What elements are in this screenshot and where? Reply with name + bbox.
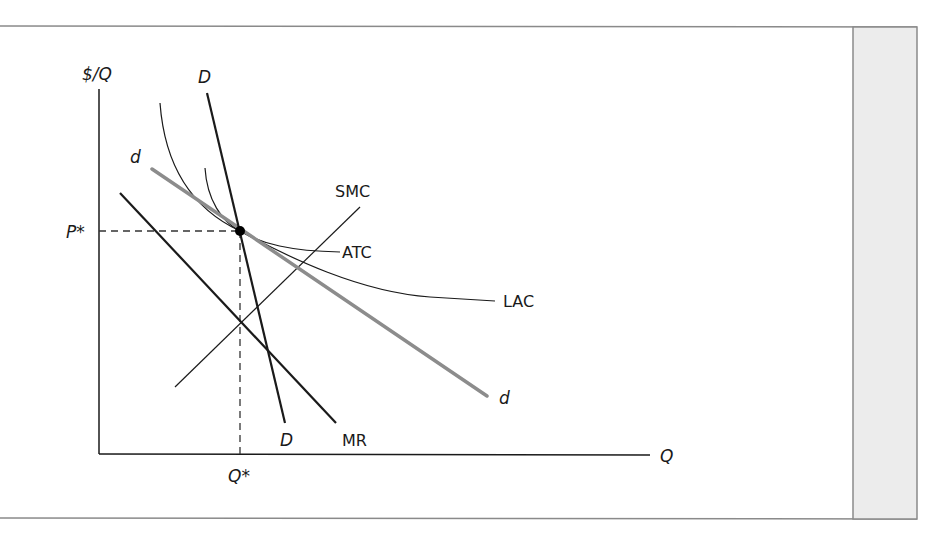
- firm-demand-label-bottom: d: [499, 388, 510, 408]
- frame-bottom-border: [0, 518, 917, 519]
- market-demand-label-bottom: D: [280, 430, 293, 450]
- x-axis: [99, 454, 650, 455]
- equilibrium-point: [235, 226, 245, 236]
- marginal-revenue-curve: [120, 193, 336, 423]
- diagram-canvas: $/Q Q P* Q* LAC ATC SMC d d D D MR: [0, 0, 952, 538]
- smc-curve: [175, 207, 360, 387]
- lac-label: LAC: [503, 292, 534, 311]
- p-star-label: P*: [66, 222, 85, 242]
- q-star-label: Q*: [228, 466, 250, 486]
- smc-label: SMC: [335, 182, 370, 201]
- atc-curve: [205, 168, 340, 252]
- market-demand-curve: [207, 93, 285, 423]
- lac-curve: [160, 103, 495, 301]
- y-axis-label: $/Q: [82, 64, 112, 84]
- firm-demand-label-top: d: [130, 147, 141, 167]
- firm-demand-curve: [152, 169, 487, 396]
- x-axis-label: Q: [660, 446, 673, 466]
- side-panel: [853, 27, 917, 519]
- market-demand-label-top: D: [198, 67, 211, 87]
- frame-top-border: [0, 26, 917, 27]
- mr-label: MR: [342, 431, 367, 450]
- atc-label: ATC: [342, 243, 372, 262]
